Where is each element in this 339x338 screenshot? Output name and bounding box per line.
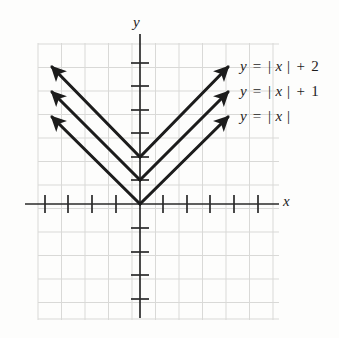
grid-lines (38, 43, 279, 320)
absolute-value-graph-figure: y x y = | x | + 2 y = | x | + 1 y = | x … (0, 0, 339, 338)
graph-canvas (0, 0, 339, 338)
